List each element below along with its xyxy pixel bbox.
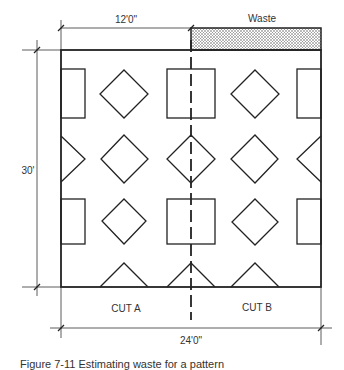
total-width-label: 24'0" (180, 335, 203, 346)
motif-diamond (232, 199, 278, 245)
cut-a-label: CUT A (111, 303, 141, 314)
cut-b-label: CUT B (242, 302, 272, 313)
motif-diamond (101, 135, 148, 183)
motif-diamond (231, 135, 278, 183)
waste-area (191, 28, 321, 50)
top-width-label: 12'0" (115, 14, 138, 25)
motif-triangle (231, 263, 279, 287)
motif-square (61, 199, 85, 244)
motif-diamond (231, 70, 279, 118)
motif-triangle (100, 263, 148, 287)
height-label: 30' (21, 165, 34, 176)
motif-diamond (100, 70, 148, 118)
motif-square (297, 69, 321, 118)
motif-diamond (102, 199, 146, 244)
motif-square (61, 69, 85, 118)
motif-half-diamond (297, 136, 321, 182)
motif-half-diamond (61, 136, 85, 182)
figure-caption: Figure 7-11 Estimating waste for a patte… (20, 358, 224, 370)
waste-label: Waste (248, 13, 276, 24)
motif-square (297, 199, 321, 244)
